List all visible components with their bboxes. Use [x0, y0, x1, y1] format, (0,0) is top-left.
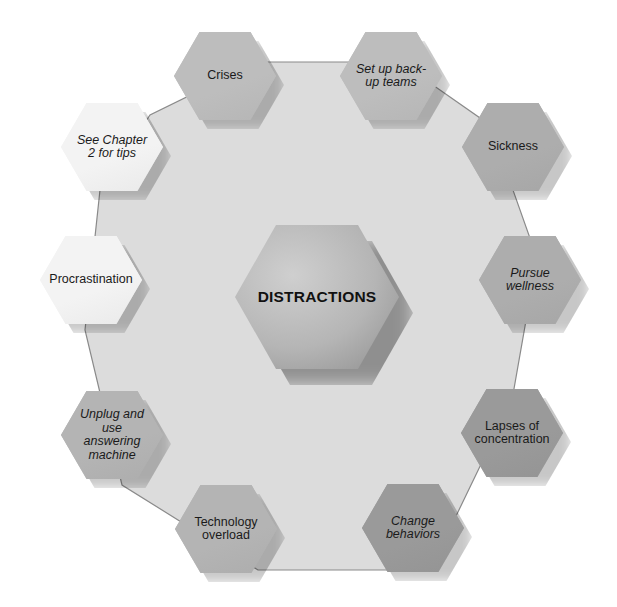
hexagon-label: Change behaviors [362, 484, 464, 572]
hexagon-label: Lapses of concentration [461, 389, 563, 477]
center-hexagon: DISTRACTIONS [235, 225, 399, 369]
hexagon-label: Technology overload [175, 485, 277, 573]
hexagon-label: Procrastination [40, 236, 142, 324]
center-title: DISTRACTIONS [235, 225, 399, 369]
hexagon-node-set-up-back-up-teams: Set up back-up teams [340, 32, 442, 120]
hexagon-node-unplug-and-use-answering-machine: Unplug and use answering machine [61, 391, 163, 479]
hexagon-node-crises: Crises [174, 32, 276, 120]
hexagon-node-procrastination: Procrastination [40, 236, 142, 324]
hexagon-label: Crises [174, 32, 276, 120]
hexagon-label: Set up back-up teams [340, 32, 442, 120]
hexagon-node-technology-overload: Technology overload [175, 485, 277, 573]
hexagon-node-sickness: Sickness [462, 103, 564, 191]
distractions-diagram: CrisesSet up back-up teamsSicknessPursue… [0, 0, 617, 607]
hexagon-node-see-chapter-2-for-tips: See Chapter 2 for tips [61, 103, 163, 191]
hexagon-label: Unplug and use answering machine [61, 391, 163, 479]
hexagon-label: Pursue wellness [479, 236, 581, 324]
hexagon-label: See Chapter 2 for tips [61, 103, 163, 191]
hexagon-node-pursue-wellness: Pursue wellness [479, 236, 581, 324]
hexagon-node-change-behaviors: Change behaviors [362, 484, 464, 572]
hexagon-node-lapses-of-concentration: Lapses of concentration [461, 389, 563, 477]
hexagon-label: Sickness [462, 103, 564, 191]
